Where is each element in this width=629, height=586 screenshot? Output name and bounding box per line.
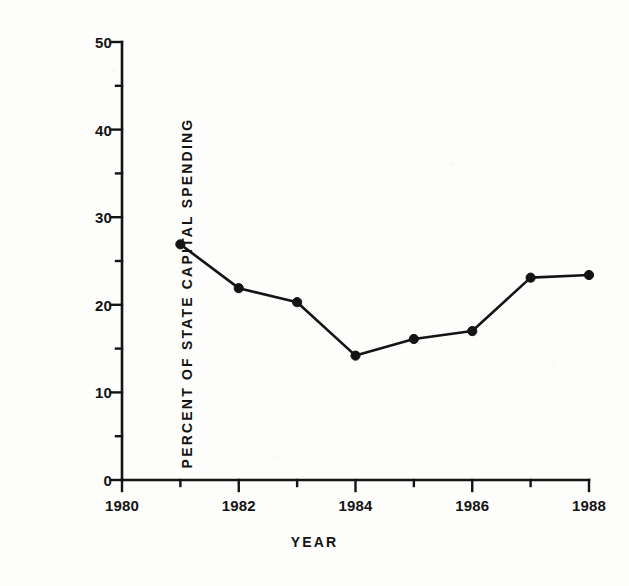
y-tick-label: 20 [70,296,112,313]
data-point-markers [176,240,594,360]
data-point-marker [468,326,477,335]
x-tick-label: 1986 [455,497,489,514]
data-point-marker [293,298,302,307]
y-axis-ticks [111,42,122,480]
x-tick-label: 1984 [338,497,372,514]
y-tick-label: 40 [70,121,112,138]
x-tick-label: 1988 [572,497,606,514]
x-tick-label: 1980 [105,497,139,514]
data-point-marker [234,284,243,293]
x-axis-ticks [122,480,589,491]
y-tick-label: 50 [70,34,112,51]
chart-figure: 0102030405019801982198419861988 PERCENT … [0,0,629,586]
y-tick-label: 30 [70,209,112,226]
data-point-marker [351,351,360,360]
y-tick-label: 0 [70,472,112,489]
line-chart-canvas [0,0,629,586]
x-axis-title: YEAR [0,534,629,550]
x-tick-label: 1982 [222,497,256,514]
data-point-marker [409,334,418,343]
data-point-marker [526,273,535,282]
y-tick-label: 10 [70,384,112,401]
y-axis-title: PERCENT OF STATE CAPITAL SPENDING [179,118,195,469]
data-point-marker [584,270,593,279]
data-series-line [180,244,589,355]
